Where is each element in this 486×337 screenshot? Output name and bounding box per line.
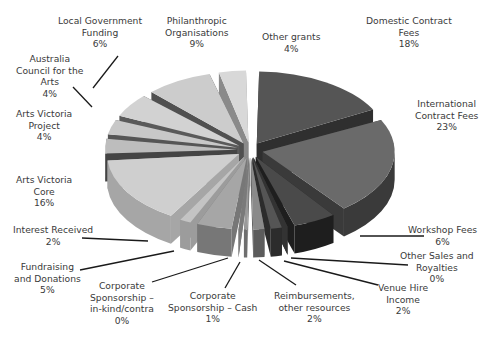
label-philanthropic: PhilanthropicOrganisations9% [165, 15, 229, 50]
label-fundraising: Fundraisingand Donations5% [14, 261, 81, 296]
leader-sponsor-cash [225, 262, 240, 288]
label-local-government: Local GovernmentFunding6% [58, 15, 142, 50]
leader-venue-hire [284, 261, 378, 285]
label-arts-victoria-core: Arts VictoriaCore16% [16, 174, 72, 209]
pie-slices [105, 71, 395, 258]
label-australia-council: AustraliaCouncil for theArts4% [16, 53, 83, 99]
label-arts-victoria-project: Arts VictoriaProject4% [16, 108, 72, 143]
label-other-grants: Other grants4% [262, 31, 320, 54]
label-international-contract: InternationalContract Fees23% [415, 98, 478, 133]
label-reimbursements: Reimbursements,other resources2% [274, 290, 355, 325]
label-venue-hire: Venue HireIncome2% [378, 282, 428, 317]
leader-fundraising [80, 251, 174, 270]
leader-sponsor-inkind [152, 258, 228, 282]
label-sponsorship-cash: CorporateSponsorship – Cash1% [168, 290, 257, 325]
label-workshop-fees: Workshop Fees6% [408, 224, 477, 247]
leader-other-sales [291, 258, 408, 265]
label-domestic-contract: Domestic ContractFees18% [366, 15, 452, 50]
leader-local-government [93, 56, 118, 88]
label-interest-received: Interest Received2% [13, 224, 93, 247]
label-sponsorship-inkind: CorporateSponsorship –in-kind/contra0% [90, 280, 154, 326]
leader-reimbursements [259, 260, 296, 285]
label-other-sales: Other Sales andRoyalties0% [400, 250, 474, 285]
